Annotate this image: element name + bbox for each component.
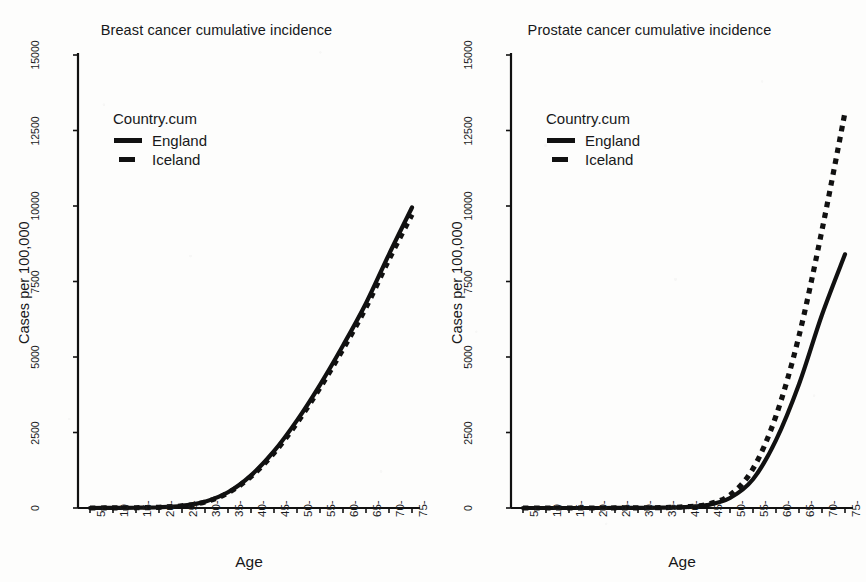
y-tick-label: 0 xyxy=(29,474,41,543)
legend-label: Iceland xyxy=(152,151,200,168)
series-line-england xyxy=(523,254,845,508)
x-tick-label: 25- xyxy=(620,500,632,517)
y-axis-title: Cases per 100,000 xyxy=(449,221,465,344)
solid-line-icon xyxy=(546,131,576,150)
x-tick-label: 15- xyxy=(574,500,586,517)
x-tick-label: 20- xyxy=(597,500,609,517)
x-tick-label: 70- xyxy=(827,500,839,517)
solid-line-icon xyxy=(113,131,143,150)
x-tick-label: 30- xyxy=(210,500,222,517)
x-tick-label: 5- xyxy=(528,507,540,517)
legend-label: England xyxy=(585,132,640,149)
y-tick-label: 0 xyxy=(462,474,474,543)
x-tick-label: 35- xyxy=(233,500,245,517)
plot-area-breast xyxy=(0,0,433,582)
panel-prostate-cancer: Prostate cancer cumulative incidence 025… xyxy=(433,0,866,582)
panel-breast-cancer: Breast cancer cumulative incidence 02500… xyxy=(0,0,433,582)
y-tick-label: 15000 xyxy=(462,21,474,90)
x-tick-label: 70- xyxy=(394,500,406,517)
x-tick-label: 50- xyxy=(735,500,747,517)
series-line-iceland xyxy=(90,214,412,508)
y-tick-label: 2500 xyxy=(462,398,474,467)
legend: Country.cumEnglandIceland xyxy=(546,110,640,169)
dashed-line-icon xyxy=(113,150,143,169)
legend-title: Country.cum xyxy=(546,110,640,127)
legend-item[interactable]: England xyxy=(546,131,640,150)
x-axis-title: Age xyxy=(511,553,853,571)
x-tick-label: 40- xyxy=(689,500,701,517)
legend-item[interactable]: England xyxy=(113,131,207,150)
series-line-iceland xyxy=(523,112,845,508)
y-tick-label: 12500 xyxy=(29,96,41,165)
x-tick-label: 65- xyxy=(371,500,383,517)
x-tick-label: 75- xyxy=(850,500,862,517)
x-tick-label: 65- xyxy=(804,500,816,517)
x-tick-label: 60- xyxy=(348,500,360,517)
x-tick-label: 10 xyxy=(118,504,130,517)
plot-area-prostate xyxy=(433,0,866,582)
x-tick-label: 45- xyxy=(279,500,291,517)
x-tick-label: 30- xyxy=(643,500,655,517)
x-tick-label: 35- xyxy=(666,500,678,517)
legend: Country.cumEnglandIceland xyxy=(113,110,207,169)
x-tick-label: 45- xyxy=(712,500,724,517)
x-tick-label: 75- xyxy=(417,500,429,517)
figure-canvas: Breast cancer cumulative incidence 02500… xyxy=(0,0,866,582)
x-axis-title: Age xyxy=(78,553,420,571)
x-tick-label: 25- xyxy=(187,500,199,517)
y-tick-label: 12500 xyxy=(462,96,474,165)
x-tick-label: 55- xyxy=(758,500,770,517)
x-tick-label: 55- xyxy=(325,500,337,517)
x-tick-label: 20- xyxy=(164,500,176,517)
x-tick-label: 60- xyxy=(781,500,793,517)
y-axis-title: Cases per 100,000 xyxy=(16,221,32,344)
dashed-line-icon xyxy=(546,150,576,169)
x-tick-label: 15- xyxy=(141,500,153,517)
legend-title: Country.cum xyxy=(113,110,207,127)
legend-item[interactable]: Iceland xyxy=(546,150,640,169)
x-tick-label: 40- xyxy=(256,500,268,517)
legend-label: England xyxy=(152,132,207,149)
y-tick-label: 15000 xyxy=(29,21,41,90)
legend-item[interactable]: Iceland xyxy=(113,150,207,169)
legend-label: Iceland xyxy=(585,151,633,168)
y-tick-label: 2500 xyxy=(29,398,41,467)
series-line-england xyxy=(90,208,412,508)
x-tick-label: 10 xyxy=(551,504,563,517)
x-tick-label: 5- xyxy=(95,507,107,517)
x-tick-label: 50- xyxy=(302,500,314,517)
